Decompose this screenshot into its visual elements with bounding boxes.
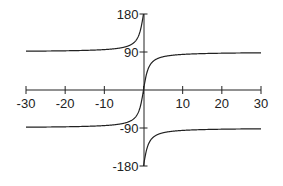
lower-right-branch-line: [144, 129, 262, 166]
x-tick-label: 20: [215, 96, 229, 111]
chart: -30-20-10102030 -180-9090180: [0, 0, 283, 186]
x-tick-label: -20: [56, 96, 75, 111]
x-tick-label: 10: [175, 96, 189, 111]
y-tick-label: 90: [124, 45, 138, 60]
y-tick-label: -180: [112, 159, 138, 174]
y-tick-label: 180: [117, 7, 139, 22]
x-tick-label: 30: [254, 96, 268, 111]
x-tick-label: -30: [17, 96, 36, 111]
x-tick-label: -10: [95, 96, 114, 111]
